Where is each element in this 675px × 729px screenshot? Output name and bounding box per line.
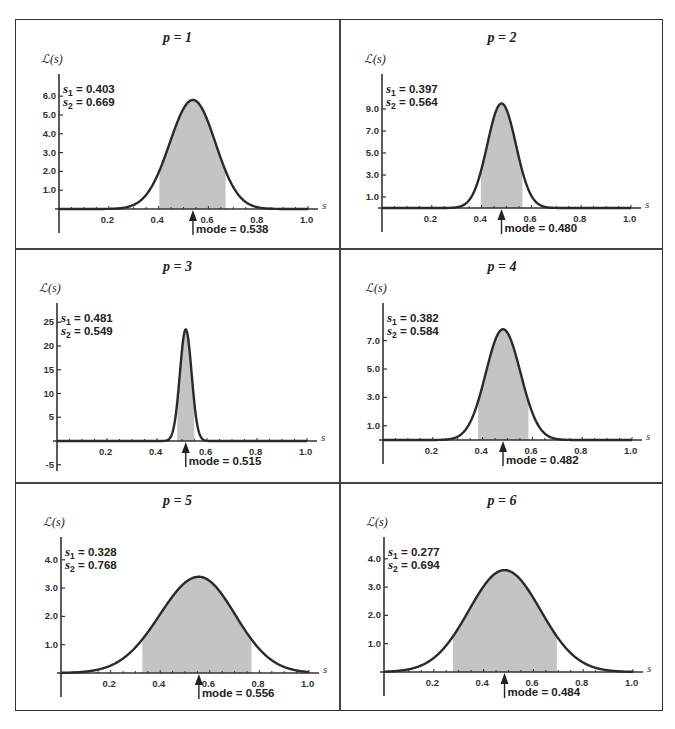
x-tick-label: 0.8 bbox=[250, 214, 263, 225]
shaded-interval-area bbox=[142, 577, 251, 673]
x-tick-label: 0.8 bbox=[573, 213, 586, 224]
x-axis-label: s bbox=[321, 431, 325, 443]
y-tick-label: 7.0 bbox=[367, 335, 380, 346]
x-tick-label: 0.4 bbox=[149, 446, 162, 457]
x-tick-label: 0.4 bbox=[475, 445, 488, 456]
y-tick-label: 20 bbox=[43, 340, 54, 351]
s2-value: = 0.564 bbox=[396, 96, 438, 108]
y-tick-label: 10 bbox=[43, 388, 54, 399]
s2-value: = 0.768 bbox=[75, 559, 117, 571]
y-tick-label: 3.0 bbox=[366, 169, 379, 180]
chart-panel-p1: p = 1ℒ(s)ss1 = 0.403s2 = 0.669mode = 0.5… bbox=[16, 20, 339, 248]
x-axis-label: s bbox=[322, 199, 326, 211]
chart-panel-p3: p = 3ℒ(s)ss1 = 0.481s2 = 0.549mode = 0.5… bbox=[16, 249, 339, 482]
x-tick-label: 0.2 bbox=[99, 446, 112, 457]
y-tick-label: 1.0 bbox=[43, 184, 56, 195]
y-tick-label: 1.0 bbox=[367, 420, 380, 431]
chart-panel-p5: p = 5ℒ(s)ss1 = 0.328s2 = 0.768mode = 0.5… bbox=[16, 483, 339, 712]
y-axis-label: ℒ(s) bbox=[365, 281, 387, 296]
y-tick-label: 15 bbox=[43, 364, 54, 375]
x-axis-label: s bbox=[646, 430, 650, 442]
stat-s2: s2 = 0.584 bbox=[387, 325, 439, 342]
x-tick-label: 0.4 bbox=[474, 213, 487, 224]
y-tick-label: 4.0 bbox=[368, 553, 381, 564]
panel-title: p = 5 bbox=[163, 493, 192, 509]
x-tick-label: 0.6 bbox=[523, 213, 536, 224]
s2-value: = 0.584 bbox=[397, 325, 439, 337]
x-tick-label: 0.6 bbox=[200, 214, 213, 225]
x-axis-label: s bbox=[323, 663, 327, 675]
y-tick-label: 1.0 bbox=[366, 191, 379, 202]
x-tick-label: 0.8 bbox=[249, 446, 262, 457]
stat-s2: s2 = 0.669 bbox=[63, 96, 115, 113]
figure-frame: p = 1ℒ(s)ss1 = 0.403s2 = 0.669mode = 0.5… bbox=[15, 19, 663, 711]
x-tick-label: 0.2 bbox=[426, 677, 439, 688]
y-tick-label: 5 bbox=[49, 411, 54, 422]
y-tick-label: 2.0 bbox=[43, 165, 56, 176]
chart-panel-p2: p = 2ℒ(s)ss1 = 0.397s2 = 0.564mode = 0.4… bbox=[340, 20, 664, 248]
mode-label: mode = 0.482 bbox=[506, 454, 579, 466]
x-tick-label: 0.4 bbox=[476, 677, 489, 688]
shaded-interval-area bbox=[481, 104, 523, 208]
x-tick-label: 1.0 bbox=[300, 214, 313, 225]
s2-value: = 0.549 bbox=[71, 325, 113, 337]
chart-panel-p6: p = 6ℒ(s)ss1 = 0.277s2 = 0.694mode = 0.4… bbox=[340, 483, 664, 712]
y-tick-label: -5 bbox=[46, 459, 54, 470]
plot-area bbox=[340, 249, 664, 482]
s1-value: = 0.382 bbox=[397, 312, 439, 324]
x-tick-label: 0.4 bbox=[151, 214, 164, 225]
shaded-interval-area bbox=[159, 100, 225, 209]
stat-s2: s2 = 0.549 bbox=[61, 325, 113, 342]
x-tick-label: 1.0 bbox=[299, 446, 312, 457]
shaded-interval-area bbox=[453, 570, 557, 672]
x-tick-label: 1.0 bbox=[301, 678, 314, 689]
y-axis-label: ℒ(s) bbox=[41, 52, 63, 67]
chart-panel-p4: p = 4ℒ(s)ss1 = 0.382s2 = 0.584mode = 0.4… bbox=[340, 249, 664, 482]
s1-value: = 0.481 bbox=[71, 312, 113, 324]
shaded-interval-area bbox=[478, 329, 528, 440]
y-tick-label: 2.0 bbox=[368, 609, 381, 620]
panel-title: p = 3 bbox=[163, 259, 192, 275]
y-axis-label: ℒ(s) bbox=[39, 281, 61, 296]
stat-s2: s2 = 0.768 bbox=[65, 559, 117, 576]
s1-value: = 0.397 bbox=[396, 83, 438, 95]
x-tick-label: 0.8 bbox=[575, 677, 588, 688]
x-tick-label: 0.6 bbox=[199, 446, 212, 457]
y-tick-label: 1.0 bbox=[368, 638, 381, 649]
plot-area bbox=[340, 483, 664, 712]
y-axis-label: ℒ(s) bbox=[43, 515, 65, 530]
x-tick-label: 0.2 bbox=[101, 214, 114, 225]
mode-label: mode = 0.484 bbox=[508, 686, 581, 698]
y-tick-label: 9.0 bbox=[366, 103, 379, 114]
x-tick-label: 0.8 bbox=[574, 445, 587, 456]
x-tick-label: 0.6 bbox=[525, 677, 538, 688]
y-axis-label: ℒ(s) bbox=[364, 52, 386, 67]
y-tick-label: 6.0 bbox=[43, 90, 56, 101]
y-tick-label: 1.0 bbox=[45, 639, 58, 650]
x-tick-label: 1.0 bbox=[623, 213, 636, 224]
s2-value: = 0.669 bbox=[73, 96, 115, 108]
x-tick-label: 0.6 bbox=[524, 445, 537, 456]
y-tick-label: 4.0 bbox=[45, 554, 58, 565]
x-tick-label: 0.8 bbox=[251, 678, 264, 689]
x-axis-label: s bbox=[645, 198, 649, 210]
y-tick-label: 25 bbox=[43, 316, 54, 327]
panel-title: p = 4 bbox=[488, 259, 517, 275]
y-tick-label: 4.0 bbox=[43, 128, 56, 139]
y-tick-label: 3.0 bbox=[45, 582, 58, 593]
x-tick-label: 0.2 bbox=[425, 445, 438, 456]
y-tick-label: 2.0 bbox=[45, 610, 58, 621]
s1-value: = 0.277 bbox=[398, 546, 440, 558]
y-axis-label: ℒ(s) bbox=[366, 515, 388, 530]
x-tick-label: 0.2 bbox=[424, 213, 437, 224]
x-tick-label: 0.4 bbox=[152, 678, 165, 689]
stat-s2: s2 = 0.564 bbox=[386, 96, 438, 113]
y-tick-label: 5.0 bbox=[367, 363, 380, 374]
plot-area bbox=[16, 20, 339, 248]
x-tick-label: 0.2 bbox=[103, 678, 116, 689]
stat-s2: s2 = 0.694 bbox=[388, 559, 440, 576]
y-tick-label: 3.0 bbox=[368, 581, 381, 592]
s1-value: = 0.328 bbox=[75, 546, 117, 558]
s1-value: = 0.403 bbox=[73, 83, 115, 95]
y-tick-label: 7.0 bbox=[366, 125, 379, 136]
